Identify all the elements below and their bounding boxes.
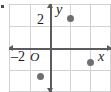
y-axis-line xyxy=(50,4,52,92)
gridline-horizontal xyxy=(9,91,111,92)
corner-artifact-mark xyxy=(1,5,4,8)
data-point xyxy=(87,59,94,66)
data-point xyxy=(67,15,74,22)
coordinate-plane-figure: y x O 2 –2 xyxy=(0,0,111,92)
x-axis-label: x xyxy=(98,50,104,64)
gridline-horizontal xyxy=(9,70,111,71)
plot-area xyxy=(9,4,111,92)
gridline-horizontal xyxy=(9,26,111,27)
x-axis-arrow-right-icon xyxy=(107,45,111,51)
x-tick-label-neg2: –2 xyxy=(11,50,25,64)
y-tick-label-2: 2 xyxy=(37,13,44,27)
data-point xyxy=(37,73,44,80)
y-axis-arrow-up-icon xyxy=(47,4,53,8)
y-axis-arrow-down-icon xyxy=(47,88,53,92)
origin-label: O xyxy=(30,50,39,63)
y-axis-label: y xyxy=(56,3,62,17)
